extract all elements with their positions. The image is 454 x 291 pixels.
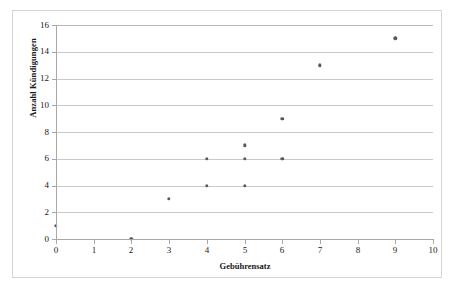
x-tick-label: 6 (269, 246, 295, 255)
gridline (56, 105, 433, 106)
x-axis-title: Gebührensatz (56, 261, 434, 271)
x-tick-label: 2 (118, 246, 144, 255)
y-tick-mark (52, 159, 56, 160)
y-tick-label: 4 (16, 181, 49, 190)
x-tick-mark (282, 240, 283, 244)
data-point (280, 117, 283, 120)
gridline (56, 79, 433, 80)
x-tick-label: 0 (43, 246, 69, 255)
gridline (56, 52, 433, 53)
x-tick-mark (433, 240, 434, 244)
chart-frame: 0246810121416 012345678910 Anzahl Kündig… (12, 10, 442, 278)
gridline (56, 212, 433, 213)
x-tick-label: 10 (420, 246, 446, 255)
x-tick-label: 7 (307, 246, 333, 255)
y-tick-label: 0 (16, 235, 49, 244)
x-tick-mark (320, 240, 321, 244)
y-tick-mark (52, 132, 56, 133)
x-tick-mark (56, 240, 57, 244)
x-tick-label: 9 (382, 246, 408, 255)
y-tick-mark (52, 105, 56, 106)
y-tick-mark (52, 52, 56, 53)
y-axis-title: Anzahl Kündigungen (28, 13, 38, 143)
x-tick-label: 1 (81, 246, 107, 255)
gridline (56, 132, 433, 133)
data-point (394, 37, 397, 40)
x-tick-label: 4 (194, 246, 220, 255)
y-tick-mark (52, 79, 56, 80)
x-tick-mark (169, 240, 170, 244)
data-point (167, 197, 170, 200)
x-tick-mark (94, 240, 95, 244)
data-point (243, 144, 246, 147)
x-tick-mark (245, 240, 246, 244)
x-tick-label: 5 (232, 246, 258, 255)
x-tick-label: 3 (156, 246, 182, 255)
x-tick-mark (358, 240, 359, 244)
x-tick-label: 8 (345, 246, 371, 255)
x-tick-mark (395, 240, 396, 244)
data-point (318, 63, 321, 66)
y-axis-line (56, 25, 57, 240)
plot-area (56, 25, 433, 239)
y-tick-label: 6 (16, 154, 49, 163)
gridline (56, 25, 433, 26)
y-tick-mark (52, 212, 56, 213)
y-tick-label: 2 (16, 208, 49, 217)
x-tick-mark (207, 240, 208, 244)
y-tick-mark (52, 186, 56, 187)
y-tick-mark (52, 25, 56, 26)
x-tick-mark (131, 240, 132, 244)
